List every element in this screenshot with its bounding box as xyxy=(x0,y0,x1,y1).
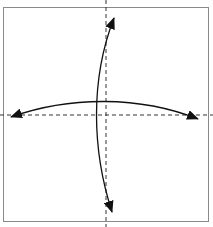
origami-diagram xyxy=(0,0,213,227)
